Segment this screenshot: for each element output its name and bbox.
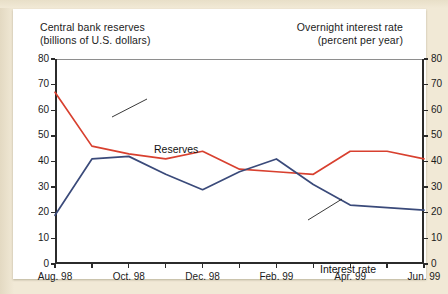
y-tick-label-right-70: 70 <box>431 78 448 89</box>
y-tick-label-left-80: 80 <box>25 53 49 64</box>
y-tick-right-70 <box>424 84 428 85</box>
left-axis-title-line1: Central bank reserves <box>40 21 145 33</box>
y-tick-right-60 <box>424 110 428 111</box>
annotation-leader-lines <box>55 59 424 264</box>
y-tick-label-right-40: 40 <box>431 155 448 166</box>
plot-area: 01020304050607080 01020304050607080 Aug.… <box>55 59 424 264</box>
chart-card: Central bank reserves(billions of U.S. d… <box>13 9 426 279</box>
y-tick-label-right-10: 10 <box>431 232 448 243</box>
x-tick-6 <box>276 264 277 268</box>
y-tick-label-right-0: 0 <box>431 258 448 269</box>
right-axis-title: Overnight interest rate(percent per year… <box>297 21 403 46</box>
page-background-left-shade <box>0 0 14 294</box>
y-tick-label-left-0: 0 <box>25 258 49 269</box>
x-tick-label-dec--98: Dec. 98 <box>173 271 233 282</box>
x-tick-5 <box>239 264 240 268</box>
y-tick-label-left-30: 30 <box>25 181 49 192</box>
y-tick-right-50 <box>424 135 428 136</box>
y-tick-label-right-20: 20 <box>431 206 448 217</box>
leader-line-interest-rate <box>308 199 342 220</box>
y-tick-label-right-60: 60 <box>431 104 448 115</box>
x-tick-10 <box>423 264 424 268</box>
y-tick-label-left-10: 10 <box>25 232 49 243</box>
y-tick-label-left-40: 40 <box>25 155 49 166</box>
annotation-interest-rate: Interest rate <box>320 263 376 275</box>
left-axis-title-line2: (billions of U.S. dollars) <box>40 34 151 46</box>
y-tick-label-right-30: 30 <box>431 181 448 192</box>
y-tick-right-20 <box>424 212 428 213</box>
x-tick-4 <box>202 264 203 268</box>
y-tick-right-10 <box>424 238 428 239</box>
right-axis-title-line2: (percent per year) <box>318 34 403 46</box>
y-tick-label-left-60: 60 <box>25 104 49 115</box>
leader-line-reserves <box>112 99 147 117</box>
y-tick-label-left-50: 50 <box>25 129 49 140</box>
y-tick-label-right-80: 80 <box>431 53 448 64</box>
y-tick-label-left-20: 20 <box>25 206 49 217</box>
x-tick-2 <box>128 264 129 268</box>
x-tick-label-oct--98: Oct. 98 <box>99 271 159 282</box>
y-tick-right-30 <box>424 186 428 187</box>
y-tick-label-right-50: 50 <box>431 129 448 140</box>
y-tick-label-left-70: 70 <box>25 78 49 89</box>
x-tick-3 <box>165 264 166 268</box>
y-tick-right-80 <box>424 58 428 59</box>
y-tick-right-40 <box>424 161 428 162</box>
right-axis-title-line1: Overnight interest rate <box>297 21 403 33</box>
x-tick-0 <box>54 264 55 268</box>
x-tick-label-aug--98: Aug. 98 <box>25 271 85 282</box>
x-tick-label-feb--99: Feb. 99 <box>246 271 306 282</box>
page-background-top-shade <box>0 0 448 8</box>
x-tick-9 <box>386 264 387 268</box>
left-axis-title: Central bank reserves(billions of U.S. d… <box>40 21 151 46</box>
x-tick-label-jun--99: Jun. 99 <box>394 271 448 282</box>
chart-figure: Central bank reserves(billions of U.S. d… <box>0 0 448 294</box>
x-tick-7 <box>313 264 314 268</box>
x-tick-1 <box>91 264 92 268</box>
